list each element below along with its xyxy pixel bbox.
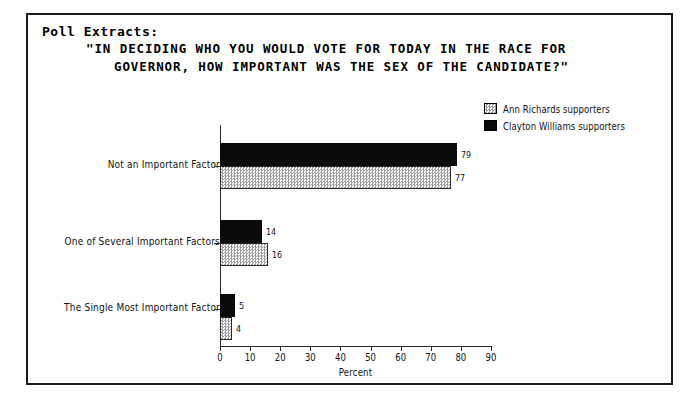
bar-richards-1 <box>220 243 268 266</box>
bar-value-clayton-2: 5 <box>235 301 244 310</box>
x-tick-label-20: 20 <box>270 351 290 363</box>
category-label-1: One of Several Important Factors <box>64 236 220 248</box>
x-tick-label-40: 40 <box>330 351 350 363</box>
category-label-2: The Single Most Important Factor <box>64 302 220 314</box>
bar-value-richards-1: 16 <box>268 250 282 259</box>
x-tick-label-60: 60 <box>391 351 411 363</box>
x-tick-label-0: 0 <box>210 351 230 363</box>
x-tick-label-50: 50 <box>361 351 381 363</box>
bar-value-richards-2: 4 <box>232 324 241 333</box>
bar-value-richards-0: 77 <box>451 173 465 182</box>
plot-area: Not an Important Factor 79 77 One of Sev… <box>28 15 675 387</box>
bar-clayton-2 <box>220 294 235 317</box>
x-axis-line <box>220 346 491 347</box>
x-tick-label-90: 90 <box>481 351 501 363</box>
x-axis-title: Percent <box>220 366 491 378</box>
bar-richards-2 <box>220 317 232 340</box>
figure-frame: Poll Extracts: "IN DECIDING WHO YOU WOUL… <box>26 13 673 385</box>
bar-richards-0 <box>220 166 451 189</box>
x-tick-label-30: 30 <box>300 351 320 363</box>
bar-clayton-0 <box>220 143 457 166</box>
x-tick-label-70: 70 <box>421 351 441 363</box>
x-tick-label-80: 80 <box>451 351 471 363</box>
bar-value-clayton-1: 14 <box>262 227 276 236</box>
bar-clayton-1 <box>220 220 262 243</box>
x-tick-label-10: 10 <box>240 351 260 363</box>
bar-value-clayton-0: 79 <box>457 150 471 159</box>
category-label-0: Not an Important Factor <box>108 159 220 171</box>
